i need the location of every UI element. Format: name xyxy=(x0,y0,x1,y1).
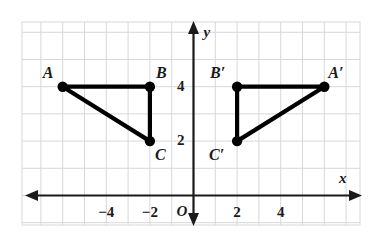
y-axis-arrow-down xyxy=(188,213,199,226)
coordinate-plane-figure: ABCB′A′C′−4−22424Oyx xyxy=(0,0,379,234)
vertex-label-bprime: B′ xyxy=(210,65,225,81)
vertex-point xyxy=(145,136,155,146)
x-axis-label: x xyxy=(339,171,347,186)
vertex-label-cprime: C′ xyxy=(209,147,224,163)
vertex-label-a: A xyxy=(43,65,54,81)
y-tick-label-4: 4 xyxy=(167,79,185,94)
vertex-label-aprime: A′ xyxy=(328,65,343,81)
x-tick-label-2: 2 xyxy=(223,205,251,220)
vertex-point xyxy=(145,82,155,92)
vertex-point xyxy=(232,82,242,92)
vertex-point xyxy=(232,136,242,146)
x-axis-arrow-left xyxy=(25,190,38,201)
vertex-label-b: B xyxy=(156,65,167,81)
vertex-point xyxy=(319,82,329,92)
y-axis-label: y xyxy=(204,25,211,40)
x-tick-label-neg2: −2 xyxy=(136,205,164,220)
x-tick-label-4: 4 xyxy=(267,205,295,220)
plot-canvas xyxy=(0,0,379,234)
y-axis-arrow-up xyxy=(188,21,199,34)
x-tick-label-neg4: −4 xyxy=(92,205,120,220)
vertex-label-c: C xyxy=(155,147,166,163)
vertex-point xyxy=(58,82,68,92)
origin-label: O xyxy=(177,204,188,219)
y-tick-label-2: 2 xyxy=(167,133,185,148)
axes xyxy=(25,21,362,226)
